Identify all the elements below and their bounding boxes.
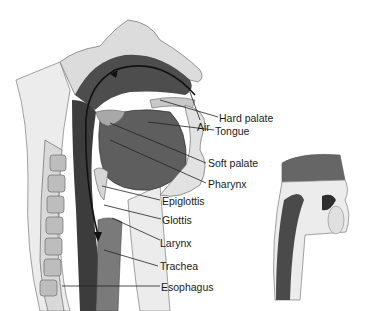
epiglottis-shape <box>94 168 108 200</box>
label-tongue: Tongue <box>215 125 249 137</box>
inset-swallow-view <box>274 154 349 300</box>
label-esophagus: Esophagus <box>161 281 214 293</box>
label-hard-palate: Hard palate <box>219 112 273 124</box>
label-glottis: Glottis <box>162 214 192 226</box>
anatomy-diagram: Air Hard palate Tongue Soft palate Phary… <box>0 0 373 311</box>
label-larynx: Larynx <box>160 237 192 249</box>
inset-tongue <box>328 206 344 234</box>
trachea-tube <box>96 218 122 311</box>
inset-nasal-dark <box>282 154 345 182</box>
label-pharynx: Pharynx <box>208 178 247 190</box>
label-air: Air <box>197 121 210 133</box>
label-soft-palate: Soft palate <box>208 157 258 169</box>
label-trachea: Trachea <box>160 260 198 272</box>
label-epiglottis: Epiglottis <box>162 195 205 207</box>
